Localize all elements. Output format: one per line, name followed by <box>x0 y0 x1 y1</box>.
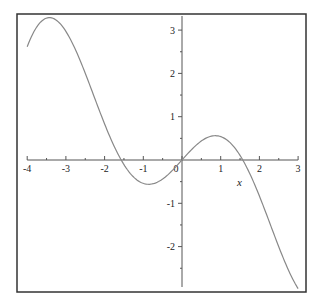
x-tick-label: -3 <box>62 163 70 174</box>
x-tick-label: 2 <box>257 163 262 174</box>
x-tick-label: -1 <box>139 163 147 174</box>
function-curve <box>27 18 298 289</box>
x-tick-label: -2 <box>100 163 108 174</box>
y-tick-label: 2 <box>170 68 175 79</box>
x-tick-label: -4 <box>23 163 31 174</box>
tick-marks <box>27 30 298 268</box>
plot-area: -4-3-2-10123-2-1123 x <box>0 0 324 308</box>
x-axis-label: x <box>236 176 242 188</box>
y-tick-label: -1 <box>167 198 175 209</box>
x-tick-label: 3 <box>296 163 301 174</box>
plot-frame <box>17 14 306 292</box>
axes <box>27 16 298 287</box>
y-tick-label: -2 <box>167 241 175 252</box>
y-tick-label: 1 <box>170 111 175 122</box>
tick-labels: -4-3-2-10123-2-1123 <box>23 25 301 253</box>
x-tick-label: 1 <box>218 163 223 174</box>
y-tick-label: 3 <box>170 25 175 36</box>
